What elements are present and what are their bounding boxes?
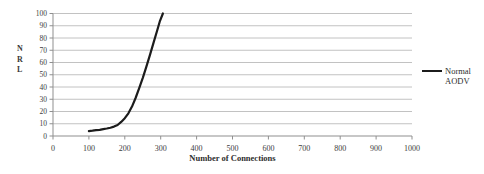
svg-text:30: 30 <box>40 95 48 104</box>
x-axis-title: Number of Connections <box>53 153 412 163</box>
svg-text:800: 800 <box>334 144 346 153</box>
y-tick-labels: 0102030405060708090100 <box>36 9 48 141</box>
legend-label-line2: AODV <box>445 76 471 86</box>
svg-text:400: 400 <box>191 144 203 153</box>
series-line <box>89 14 163 132</box>
svg-text:80: 80 <box>40 34 48 43</box>
svg-text:70: 70 <box>40 46 48 55</box>
x-tick-labels: 01002003004005006007008009001000 <box>51 144 420 153</box>
svg-text:90: 90 <box>40 21 48 30</box>
svg-text:1000: 1000 <box>404 144 420 153</box>
svg-text:10: 10 <box>40 119 48 128</box>
svg-text:300: 300 <box>155 144 167 153</box>
legend-line-sample <box>422 70 442 72</box>
svg-text:60: 60 <box>40 58 48 67</box>
svg-text:600: 600 <box>262 144 274 153</box>
svg-text:0: 0 <box>43 132 47 141</box>
svg-text:50: 50 <box>40 70 48 79</box>
svg-text:0: 0 <box>51 144 55 153</box>
gridlines <box>53 14 412 124</box>
legend-label: Normal AODV <box>445 66 471 86</box>
svg-text:700: 700 <box>298 144 310 153</box>
svg-text:100: 100 <box>36 9 48 18</box>
chart-figure: N R L 0102030405060708090100010020030040… <box>0 0 484 174</box>
legend: Normal AODV <box>422 66 471 86</box>
svg-text:20: 20 <box>40 107 48 116</box>
axes <box>50 14 413 140</box>
legend-label-line1: Normal <box>445 66 471 76</box>
svg-text:500: 500 <box>227 144 239 153</box>
svg-text:200: 200 <box>119 144 131 153</box>
svg-text:40: 40 <box>40 83 48 92</box>
svg-text:100: 100 <box>83 144 95 153</box>
chart-svg: 0102030405060708090100010020030040050060… <box>0 0 484 174</box>
svg-text:900: 900 <box>370 144 382 153</box>
